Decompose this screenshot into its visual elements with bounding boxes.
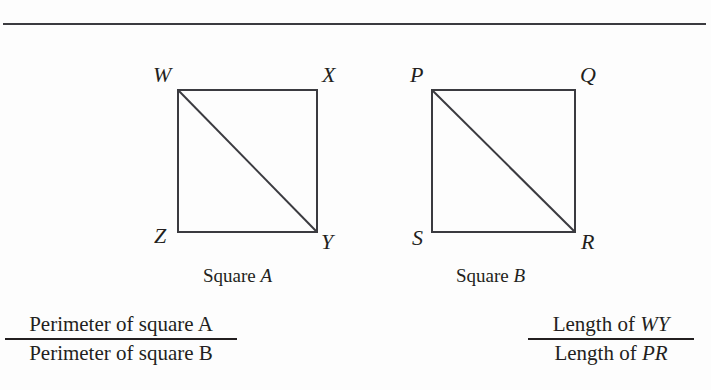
diagonal-length-ratio-denominator-text: Length of xyxy=(554,341,641,365)
square-b-diagonal xyxy=(433,91,574,231)
vertex-label-r: R xyxy=(581,231,594,253)
vertex-label-z: Z xyxy=(154,225,166,247)
vertex-label-s: S xyxy=(412,227,423,249)
caption-square-b-name: B xyxy=(514,265,526,286)
vertex-label-p: P xyxy=(410,64,423,86)
expression-diagonal-length-ratio: Length of WY Length of PR xyxy=(528,312,694,366)
vertex-label-w: W xyxy=(153,64,171,86)
perimeter-ratio-denominator-text: Perimeter of square xyxy=(29,341,199,365)
perimeter-ratio-numerator: Perimeter of square A xyxy=(5,312,237,338)
perimeter-ratio-denominator: Perimeter of square B xyxy=(5,340,237,366)
vertex-label-q: Q xyxy=(580,64,596,86)
caption-square-a-prefix: Square xyxy=(203,265,261,286)
perimeter-ratio-numerator-term: A xyxy=(198,312,213,336)
diagonal-length-ratio-numerator: Length of WY xyxy=(528,312,694,338)
expression-perimeter-ratio: Perimeter of square A Perimeter of squar… xyxy=(5,312,237,366)
diagonal-length-ratio-denominator: Length of PR xyxy=(528,340,694,366)
diagonal-length-ratio-numerator-text: Length of xyxy=(553,312,640,336)
diagonal-length-ratio-denominator-term: PR xyxy=(642,341,668,365)
perimeter-ratio-numerator-text: Perimeter of square xyxy=(29,312,198,336)
perimeter-ratio-denominator-term: B xyxy=(199,341,213,365)
figures-container: W X Z Y Square A P Q S R Square B xyxy=(0,0,711,300)
caption-square-b-prefix: Square xyxy=(456,265,514,286)
caption-square-b: Square B xyxy=(456,266,525,285)
page-canvas: W X Z Y Square A P Q S R Square B Per xyxy=(0,0,711,390)
diagonal-length-ratio-numerator-term: WY xyxy=(640,312,669,336)
square-b-drawing xyxy=(254,0,654,300)
